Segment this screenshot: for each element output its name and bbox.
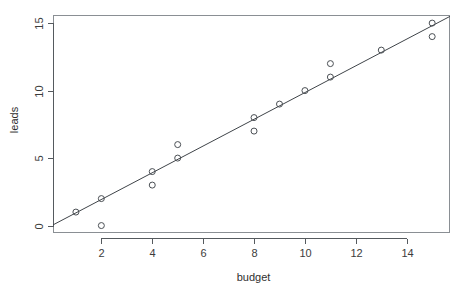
x-tick-label: 10 bbox=[299, 247, 311, 259]
scatter-plot-svg: 051015 2468101214 budget leads bbox=[0, 0, 460, 296]
data-point bbox=[98, 223, 104, 229]
x-axis: 2468101214 bbox=[98, 239, 413, 260]
x-axis-title: budget bbox=[237, 271, 271, 283]
x-tick-label: 6 bbox=[200, 247, 206, 259]
x-tick-label: 4 bbox=[149, 247, 155, 259]
y-tick-label: 10 bbox=[33, 85, 45, 97]
data-point bbox=[175, 142, 181, 148]
x-tick-label: 8 bbox=[251, 247, 257, 259]
data-point bbox=[327, 61, 333, 67]
plot-root: 051015 2468101214 budget leads bbox=[0, 0, 460, 296]
y-tick-label: 0 bbox=[33, 223, 45, 229]
data-point bbox=[149, 182, 155, 188]
y-axis: 051015 bbox=[33, 17, 54, 229]
regression-line bbox=[53, 16, 450, 225]
data-point bbox=[251, 128, 257, 134]
x-tick-label: 14 bbox=[401, 247, 413, 259]
x-tick-label: 2 bbox=[98, 247, 104, 259]
data-points bbox=[73, 20, 435, 228]
x-tick-label: 12 bbox=[350, 247, 362, 259]
data-point bbox=[429, 34, 435, 40]
y-tick-label: 15 bbox=[33, 17, 45, 29]
y-tick-label: 5 bbox=[33, 155, 45, 161]
y-axis-title: leads bbox=[8, 106, 20, 133]
